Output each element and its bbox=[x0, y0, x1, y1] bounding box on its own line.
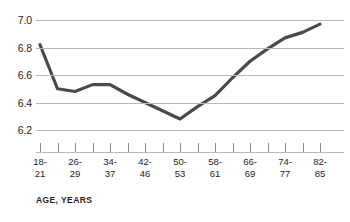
series-line bbox=[36, 14, 344, 138]
x-tick-mark bbox=[145, 143, 146, 152]
x-tick-mark bbox=[215, 143, 216, 152]
x-tick-mark bbox=[180, 143, 181, 152]
x-tick-mark bbox=[198, 143, 199, 152]
x-tick-mark bbox=[233, 143, 234, 152]
x-tick-label: 42- 46 bbox=[125, 156, 165, 180]
x-tick-mark bbox=[285, 143, 286, 152]
y-axis: 7.06.86.66.46.2 bbox=[0, 0, 32, 160]
x-tick-mark bbox=[163, 143, 164, 152]
y-tick-label: 6.4 bbox=[0, 98, 32, 109]
x-tick-mark bbox=[250, 143, 251, 152]
x-tick-mark bbox=[40, 143, 41, 152]
x-tick-label: 50- 53 bbox=[160, 156, 200, 180]
x-axis-title: AGE, YEARS bbox=[36, 195, 92, 205]
y-tick-label: 6.2 bbox=[0, 125, 32, 136]
x-tick-mark bbox=[128, 143, 129, 152]
gridline bbox=[36, 20, 344, 21]
x-axis-labels: 18- 2126- 2934- 3742- 4650- 5358- 6166- … bbox=[0, 156, 350, 188]
gridline bbox=[36, 48, 344, 49]
x-axis-ticks bbox=[36, 143, 344, 153]
x-tick-mark bbox=[303, 143, 304, 152]
x-tick-mark bbox=[110, 143, 111, 152]
x-tick-label: 18- 21 bbox=[20, 156, 60, 180]
data-line bbox=[40, 24, 320, 119]
y-tick-label: 7.0 bbox=[0, 15, 32, 26]
x-tick-mark bbox=[320, 143, 321, 152]
gridline bbox=[36, 103, 344, 104]
x-tick-label: 26- 29 bbox=[55, 156, 95, 180]
y-tick-label: 6.8 bbox=[0, 43, 32, 54]
x-tick-label: 74- 77 bbox=[265, 156, 305, 180]
plot-area bbox=[36, 14, 344, 138]
x-tick-label: 34- 37 bbox=[90, 156, 130, 180]
x-tick-label: 82- 85 bbox=[300, 156, 340, 180]
x-tick-mark bbox=[268, 143, 269, 152]
x-tick-label: 66- 69 bbox=[230, 156, 270, 180]
gridline bbox=[36, 75, 344, 76]
x-tick-mark bbox=[75, 143, 76, 152]
line-chart: 7.06.86.66.46.2 18- 2126- 2934- 3742- 46… bbox=[0, 0, 350, 222]
x-tick-mark bbox=[58, 143, 59, 152]
gridline bbox=[36, 130, 344, 131]
y-tick-label: 6.6 bbox=[0, 70, 32, 81]
x-tick-label: 58- 61 bbox=[195, 156, 235, 180]
x-tick-mark bbox=[93, 143, 94, 152]
